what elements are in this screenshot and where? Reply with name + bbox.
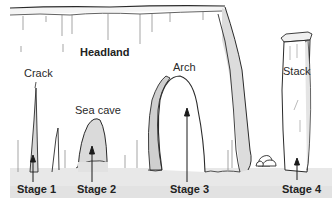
arch-label: Arch	[173, 62, 196, 73]
sea-cave-label: Sea cave	[75, 105, 121, 116]
stage-1-label: Stage 1	[17, 184, 56, 195]
rubble-rocks	[256, 156, 276, 167]
stack-label: Stack	[283, 66, 311, 77]
crack-label: Crack	[24, 68, 53, 79]
stage-2-label: Stage 2	[77, 184, 116, 195]
stage-3-label: Stage 3	[170, 184, 209, 195]
stack-feature	[281, 32, 312, 172]
headland-label: Headland	[80, 47, 130, 58]
stage-4-label: Stage 4	[282, 184, 321, 195]
coastal-erosion-diagram	[0, 0, 332, 206]
arch-feature	[148, 76, 240, 172]
headland-cliff	[10, 6, 251, 172]
